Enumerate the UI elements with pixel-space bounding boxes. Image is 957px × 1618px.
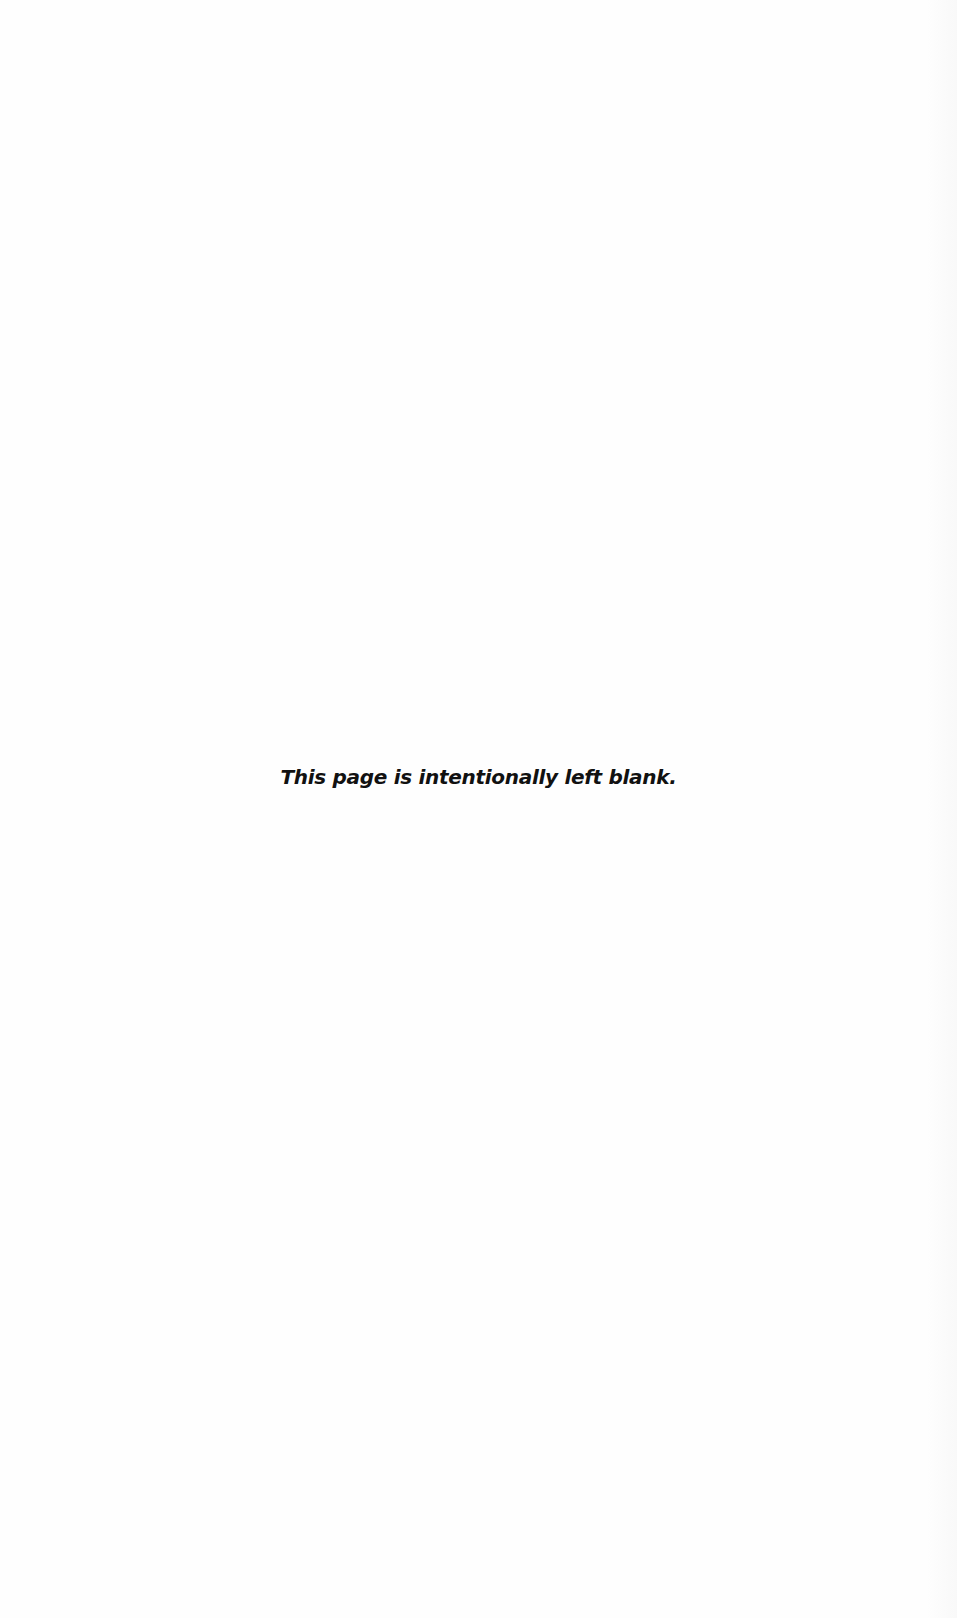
document-page: This page is intentionally left blank. <box>0 0 957 1618</box>
page-edge-shadow <box>927 0 957 1618</box>
blank-page-notice: This page is intentionally left blank. <box>0 765 957 789</box>
